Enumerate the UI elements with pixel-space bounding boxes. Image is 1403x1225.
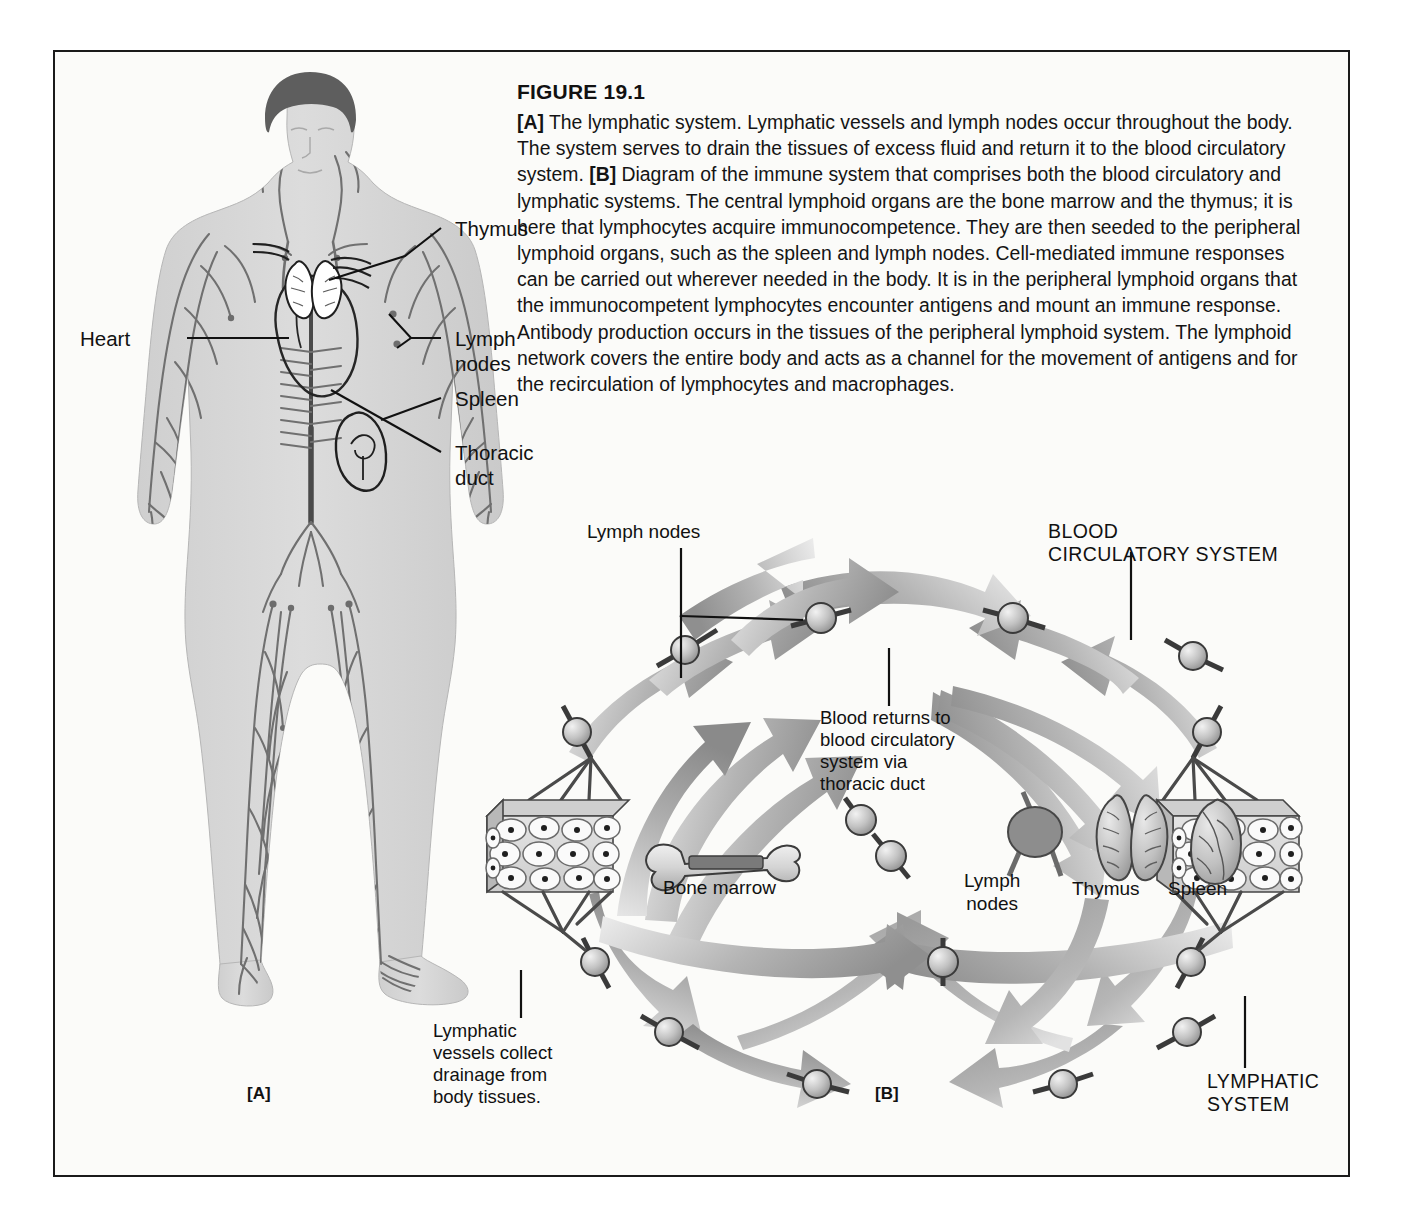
node-bead xyxy=(1177,938,1205,988)
panel-a-leader-lines xyxy=(187,228,441,452)
organ-icons xyxy=(1008,792,1241,884)
label-lymph-nodes-a: Lymph nodes xyxy=(455,326,516,376)
caption-tag-b: [B] xyxy=(589,163,616,185)
caption-text-b: Diagram of the immune system that compri… xyxy=(517,163,1300,395)
node-bead xyxy=(791,603,851,633)
label-blood-returns: Blood returns to blood circulatory syste… xyxy=(820,707,955,795)
leader-lymphnodes-2 xyxy=(397,338,411,348)
organ-spleen xyxy=(1191,800,1241,884)
caption-tag-a: [A] xyxy=(517,111,544,133)
body-silhouette xyxy=(138,74,504,996)
figure-frame: FIGURE 19.1 [A] The lymphatic system. Ly… xyxy=(53,50,1350,1177)
label-heart: Heart xyxy=(80,326,130,351)
leader-thymus xyxy=(329,228,441,280)
node-bead xyxy=(873,834,909,878)
node-bead xyxy=(845,798,876,835)
face-features xyxy=(291,128,334,173)
figure-title: FIGURE 19.1 xyxy=(517,80,1317,104)
node-bead xyxy=(787,1070,849,1098)
node-bead-center xyxy=(928,938,958,986)
node-bead xyxy=(657,630,717,666)
label-bone-marrow: Bone marrow xyxy=(663,876,776,899)
label-spleen-organ: Spleen xyxy=(1168,877,1227,900)
thymus-organ xyxy=(253,244,371,318)
organ-lymph-node xyxy=(1008,792,1062,876)
lymphatic-ring-arrows xyxy=(569,600,1217,1108)
label-lymph-nodes-organ: Lymph nodes xyxy=(964,869,1020,915)
lymph-node-beads xyxy=(563,603,1223,1098)
leader-lymphnodes-b2 xyxy=(681,616,803,620)
panel-b-letter: [B] xyxy=(875,1084,899,1104)
label-blood-circulatory-system: BLOOD CIRCULATORY SYSTEM xyxy=(1048,520,1278,566)
panel-a-anatomy-illustration xyxy=(105,52,525,1052)
node-bead xyxy=(1157,1016,1215,1048)
panel-a-letter: [A] xyxy=(247,1084,271,1104)
spleen-organ xyxy=(336,413,386,491)
heart-organ xyxy=(275,276,357,397)
node-bead xyxy=(1033,1070,1093,1098)
panel-b-immune-diagram xyxy=(413,480,1373,1140)
leader-lymphnodes-1 xyxy=(389,314,441,338)
node-bead xyxy=(983,603,1045,633)
organ-thymus xyxy=(1097,795,1168,880)
panel-b-leader-lines xyxy=(521,548,1245,1068)
leader-thoracic-duct xyxy=(331,390,441,452)
lymphatic-vessel-network xyxy=(149,152,491,996)
node-bead xyxy=(1165,640,1223,670)
node-bead xyxy=(563,706,591,758)
tissue-cells xyxy=(486,817,620,890)
label-lymphatic-vessels: Lymphatic vessels collect drainage from … xyxy=(433,1020,552,1108)
figure-caption-block: FIGURE 19.1 [A] The lymphatic system. Ly… xyxy=(517,80,1317,397)
label-lymphatic-system: LYMPHATIC SYSTEM xyxy=(1207,1070,1319,1116)
tissue-block-right xyxy=(1157,758,1302,950)
leader-spleen xyxy=(381,398,441,420)
node-bead xyxy=(581,938,609,988)
label-thoracic-duct: Thoracic duct xyxy=(455,440,534,490)
blood-circulatory-arrows xyxy=(599,538,1233,1052)
label-thymus-organ: Thymus xyxy=(1072,877,1140,900)
label-lymph-nodes-b: Lymph nodes xyxy=(587,520,700,543)
feet xyxy=(218,956,468,1006)
label-spleen-a: Spleen xyxy=(455,386,519,411)
node-bead xyxy=(641,1016,699,1048)
hair xyxy=(265,72,356,133)
figure-caption-text: [A] The lymphatic system. Lymphatic vess… xyxy=(517,109,1317,397)
figure-page: FIGURE 19.1 [A] The lymphatic system. Ly… xyxy=(0,0,1403,1225)
label-thymus: Thymus xyxy=(455,216,528,241)
node-bead xyxy=(1193,706,1221,758)
tissue-block-left xyxy=(486,758,629,950)
